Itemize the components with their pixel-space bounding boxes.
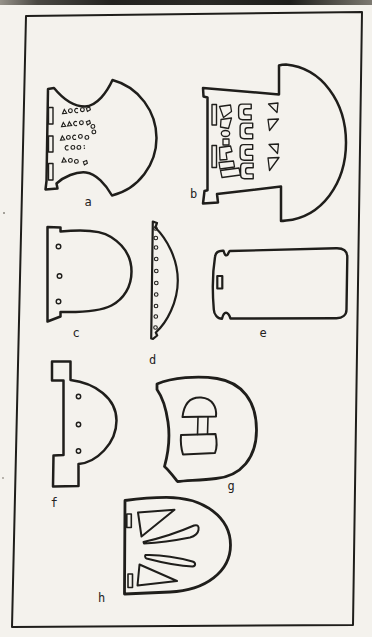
- artifact-b-rivet-slots: [212, 105, 217, 168]
- artifact-c-drawing: c: [48, 227, 132, 340]
- artifact-g-bottom-opening: [181, 434, 217, 455]
- scan-speck: [2, 477, 4, 479]
- scan-speck: [3, 212, 5, 214]
- artifact-a-outline: [46, 80, 157, 196]
- artifact-a-drawing: a: [46, 80, 157, 209]
- label-f: f: [50, 496, 57, 510]
- artifact-e-drawing: e: [213, 248, 347, 340]
- artifact-e-slot: [217, 276, 222, 289]
- artifact-h-rivet-slots: [127, 514, 133, 588]
- artifact-a-rivet-slots: [49, 108, 54, 181]
- artifact-g-outline: [157, 377, 257, 481]
- artifact-b-outline: [203, 65, 346, 222]
- artifact-e-outline: [213, 248, 347, 319]
- artifact-g-drawing: g: [157, 377, 257, 493]
- label-e: e: [259, 326, 266, 340]
- artifact-h-drawing: h: [98, 497, 231, 605]
- label-g: g: [227, 479, 234, 493]
- artifact-d-drawing: d: [149, 222, 178, 368]
- artifact-b-openwork: [219, 103, 279, 179]
- artifact-b-drawing: b: [190, 65, 346, 222]
- label-c: c: [72, 326, 79, 340]
- artifact-g-bridge-lines: [198, 417, 209, 435]
- label-b: b: [190, 187, 197, 201]
- scanned-figure-page: { "page": { "paper_color": "#f4f2ed", "i…: [0, 0, 372, 637]
- artifact-d-rivet-holes: [154, 227, 158, 330]
- label-d: d: [149, 353, 156, 367]
- artifact-f-rivet-holes: [76, 394, 80, 453]
- artifact-g-top-opening: [183, 397, 217, 417]
- label-a: a: [84, 195, 91, 209]
- figure-plate: a b: [0, 0, 372, 637]
- label-h: h: [98, 591, 105, 605]
- artifact-c-rivet-holes: [56, 244, 62, 304]
- artifact-f-drawing: f: [50, 362, 116, 511]
- artifact-a-perforation-marks: [61, 107, 96, 165]
- artifact-f-outline: [52, 362, 117, 487]
- artifact-h-openwork: [138, 510, 199, 586]
